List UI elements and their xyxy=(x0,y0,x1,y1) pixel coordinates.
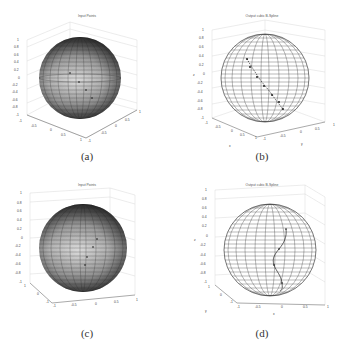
svg-text:0.5: 0.5 xyxy=(315,127,320,131)
svg-text:x: x xyxy=(229,144,231,148)
svg-text:-1: -1 xyxy=(16,113,19,117)
svg-text:-1: -1 xyxy=(88,139,91,143)
svg-text:0.8: 0.8 xyxy=(202,197,207,201)
svg-text:-1: -1 xyxy=(204,280,207,284)
svg-text:0.8: 0.8 xyxy=(199,36,204,40)
svg-text:1: 1 xyxy=(327,305,329,309)
svg-text:1: 1 xyxy=(80,138,82,142)
svg-text:z: z xyxy=(193,73,195,77)
svg-text:-1: -1 xyxy=(205,121,208,125)
svg-text:0: 0 xyxy=(300,130,302,134)
svg-text:1: 1 xyxy=(255,136,257,140)
panel-caption: (d) xyxy=(175,327,349,339)
svg-text:-0.5: -0.5 xyxy=(215,125,221,129)
svg-text:-0.6: -0.6 xyxy=(15,262,21,266)
svg-text:1: 1 xyxy=(17,38,19,42)
svg-text:0.6: 0.6 xyxy=(202,206,207,210)
svg-text:-0.5: -0.5 xyxy=(255,305,261,309)
svg-text:0.2: 0.2 xyxy=(202,224,207,228)
svg-text:0: 0 xyxy=(206,234,208,238)
svg-text:1: 1 xyxy=(20,191,22,195)
svg-text:-1: -1 xyxy=(19,119,22,123)
svg-text:x: x xyxy=(273,312,275,316)
svg-text:-0.4: -0.4 xyxy=(200,253,206,257)
svg-text:1: 1 xyxy=(205,188,207,192)
svg-text:-0.6: -0.6 xyxy=(12,98,18,102)
svg-text:-0.5: -0.5 xyxy=(280,134,286,138)
panel-caption: (a) xyxy=(0,150,174,162)
svg-text:-0.8: -0.8 xyxy=(12,105,18,109)
svg-text:0: 0 xyxy=(203,72,205,76)
svg-text:0: 0 xyxy=(115,124,117,128)
svg-text:-0.8: -0.8 xyxy=(15,271,21,275)
svg-text:0.5: 0.5 xyxy=(114,300,119,304)
svg-text:-0.4: -0.4 xyxy=(12,90,18,94)
panel-c: Input Points xyxy=(0,175,174,349)
svg-text:0.8: 0.8 xyxy=(14,45,19,49)
svg-text:-1: -1 xyxy=(46,300,49,304)
svg-text:0.6: 0.6 xyxy=(199,45,204,49)
svg-text:0.6: 0.6 xyxy=(14,53,19,57)
svg-text:1: 1 xyxy=(136,298,138,302)
svg-text:z: z xyxy=(194,238,196,242)
svg-text:-0.6: -0.6 xyxy=(200,262,206,266)
panel-b: Output cubic B-Spline xyxy=(175,0,349,174)
svg-text:-0.2: -0.2 xyxy=(15,244,21,248)
sphere-plot-a: 10.80.6 0.40.20 -0.2-0.4-0.6 -0.8-1 -1-0… xyxy=(0,0,174,174)
svg-text:-0.8: -0.8 xyxy=(197,107,203,111)
svg-text:-1: -1 xyxy=(19,280,22,284)
svg-text:0.4: 0.4 xyxy=(199,54,204,58)
svg-text:-0.6: -0.6 xyxy=(197,99,203,103)
panel-a: Input Points xyxy=(0,0,174,174)
svg-text:-1: -1 xyxy=(230,300,233,304)
sphere-plot-b: 10.80.6 0.40.20 -0.2-0.4-0.6 -0.8-1 z -1… xyxy=(175,0,349,174)
svg-text:0: 0 xyxy=(18,76,20,80)
svg-text:1: 1 xyxy=(208,285,210,289)
svg-text:0: 0 xyxy=(95,302,97,306)
svg-text:1: 1 xyxy=(202,28,204,32)
panel-caption: (b) xyxy=(175,150,349,162)
svg-text:-1: -1 xyxy=(201,116,204,120)
svg-text:0.5: 0.5 xyxy=(125,118,130,122)
svg-text:0.2: 0.2 xyxy=(199,63,204,67)
svg-text:y: y xyxy=(301,142,303,146)
svg-text:0: 0 xyxy=(37,292,39,296)
svg-text:0.8: 0.8 xyxy=(17,201,22,205)
svg-text:0: 0 xyxy=(281,305,283,309)
svg-text:-0.4: -0.4 xyxy=(15,253,21,257)
svg-text:0: 0 xyxy=(220,293,222,297)
svg-text:-0.2: -0.2 xyxy=(200,243,206,247)
svg-text:-0.5: -0.5 xyxy=(71,303,77,307)
svg-text:0.5: 0.5 xyxy=(61,133,66,137)
svg-text:0.2: 0.2 xyxy=(14,68,19,72)
svg-text:0: 0 xyxy=(50,128,52,132)
svg-text:0.4: 0.4 xyxy=(14,60,19,64)
svg-text:-0.8: -0.8 xyxy=(200,271,206,275)
svg-text:0.4: 0.4 xyxy=(17,218,22,222)
svg-text:-0.5: -0.5 xyxy=(31,124,37,128)
svg-text:0.4: 0.4 xyxy=(202,215,207,219)
svg-text:0.5: 0.5 xyxy=(240,133,245,137)
svg-text:1: 1 xyxy=(139,110,141,114)
panel-caption: (c) xyxy=(0,327,174,339)
svg-text:1: 1 xyxy=(24,284,26,288)
svg-text:0.2: 0.2 xyxy=(17,227,22,231)
svg-text:-1: -1 xyxy=(53,304,56,308)
svg-text:-0.5: -0.5 xyxy=(101,131,107,135)
svg-text:0.6: 0.6 xyxy=(17,209,22,213)
svg-text:-0.2: -0.2 xyxy=(197,81,203,85)
svg-text:-0.4: -0.4 xyxy=(197,90,203,94)
svg-text:-0.2: -0.2 xyxy=(12,83,18,87)
sphere-plot-d: 10.80.6 0.40.20 -0.2-0.4-0.6 -0.8-1 z 10… xyxy=(175,175,349,349)
sphere-plot-c: 10.80.6 0.40.20 -0.2-0.4-0.6 -0.8-1 10-1… xyxy=(0,175,174,349)
svg-text:1: 1 xyxy=(333,123,335,127)
svg-text:y: y xyxy=(205,309,207,313)
svg-text:-1: -1 xyxy=(263,137,266,141)
svg-text:-1: -1 xyxy=(237,305,240,309)
svg-text:0: 0 xyxy=(21,236,23,240)
svg-text:0.5: 0.5 xyxy=(303,305,308,309)
panel-d: Output cubic B-Spline xyxy=(175,175,349,349)
svg-text:0: 0 xyxy=(231,129,233,133)
